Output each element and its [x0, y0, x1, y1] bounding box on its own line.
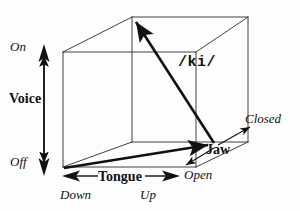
voice-axis-arrowheads [39, 44, 50, 176]
jaw-axis-max-label: Closed [245, 112, 281, 125]
cube-diagram [0, 0, 300, 211]
tongue-axis-shaft-right [145, 175, 166, 176]
voice-axis-label: Voice [9, 92, 41, 106]
voice-axis-min-label: Off [10, 155, 27, 168]
cube-edge-depth-top-left [63, 17, 132, 52]
voice-axis-shaft [43, 58, 44, 162]
cube-edge-depth-top-right [196, 17, 248, 52]
tongue-axis-min-label: Down [60, 188, 91, 201]
ki-vector-line [136, 22, 214, 143]
jaw-axis-label: Jaw [206, 143, 230, 157]
tongue-axis-max-label: Up [140, 188, 156, 201]
figure-container: On Voice Off Tongue Down Up Jaw Open Clo… [0, 0, 300, 211]
voice-axis-max-label: On [10, 40, 26, 53]
ki-trajectory-label: /ki/ [178, 55, 216, 70]
tongue-axis-label: Tongue [98, 170, 142, 184]
ki-trajectory-vector [136, 22, 214, 143]
tongue-axis-shaft-left [76, 175, 98, 176]
jaw-axis-min-label: Open [184, 168, 212, 181]
